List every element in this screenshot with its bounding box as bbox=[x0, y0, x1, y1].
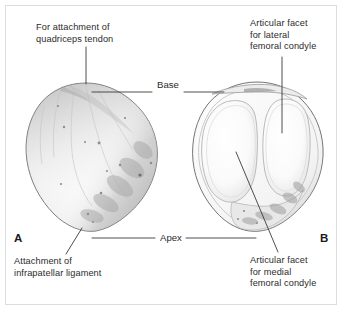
patella-a-top-shading bbox=[26, 83, 157, 231]
label-medial-facet-line2: for medial bbox=[250, 267, 316, 279]
label-quadriceps-tendon: For attachment of quadriceps tendon bbox=[36, 22, 113, 45]
label-quadriceps-line1: For attachment of bbox=[36, 22, 113, 34]
label-apex: Apex bbox=[157, 232, 185, 243]
panel-marker-b: B bbox=[320, 232, 328, 244]
label-lateral-facet-line3: femoral condyle bbox=[250, 41, 316, 53]
label-infrapatellar-ligament: Attachment of infrapatellar ligament bbox=[14, 256, 102, 279]
patella-anterior-bone bbox=[26, 83, 157, 231]
patella-posterior-bone bbox=[193, 82, 324, 231]
label-medial-facet-line1: Articular facet bbox=[250, 255, 316, 267]
label-medial-facet: Articular facet for medial femoral condy… bbox=[250, 255, 316, 290]
label-lateral-facet-line1: Articular facet bbox=[250, 18, 316, 30]
patella-figure: For attachment of quadriceps tendon Arti… bbox=[0, 0, 344, 313]
panel-marker-a: A bbox=[14, 232, 22, 244]
label-quadriceps-line2: quadriceps tendon bbox=[36, 34, 113, 46]
label-lateral-facet: Articular facet for lateral femoral cond… bbox=[250, 18, 316, 53]
label-lateral-facet-line2: for lateral bbox=[250, 30, 316, 42]
label-infrapatellar-line1: Attachment of bbox=[14, 256, 102, 268]
label-infrapatellar-line2: infrapatellar ligament bbox=[14, 268, 102, 280]
label-medial-facet-line3: femoral condyle bbox=[250, 278, 316, 290]
label-base: Base bbox=[154, 79, 182, 90]
leader-infrapatellar bbox=[66, 228, 82, 254]
